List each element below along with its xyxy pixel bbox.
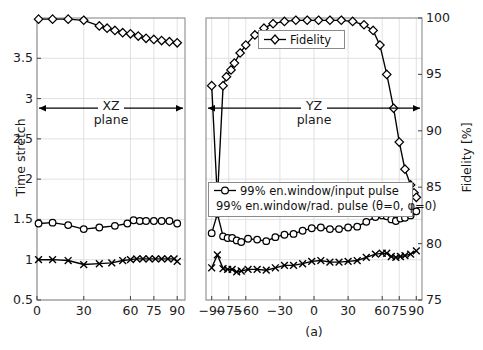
data-point-diamond [314, 16, 322, 24]
xz-plane-line1: XZ [94, 99, 129, 113]
data-point-diamond [118, 28, 126, 36]
data-point-circle [80, 226, 87, 233]
axis-tick-label: 30 [76, 303, 92, 318]
data-point-diamond [111, 26, 119, 34]
data-point-circle [336, 226, 343, 233]
y-axis-label-right: Fidelity [%] [459, 122, 474, 192]
data-point-circle [238, 239, 245, 246]
data-point-circle [363, 219, 370, 226]
data-point-circle [299, 227, 306, 234]
yz-plane-line1: YZ [297, 99, 332, 113]
data-point-diamond [80, 16, 88, 24]
diamond-marker [263, 33, 287, 46]
data-point-circle [49, 219, 56, 226]
axis-tick-label: 2.5 [13, 131, 33, 146]
data-point-diamond [34, 15, 42, 23]
figure-caption: (a) [305, 324, 322, 339]
axis-tick-label: 30 [340, 303, 356, 318]
axis-tick-label: 0 [33, 303, 41, 318]
legend-label-rad-pulse: 99% en.window/rad. pulse (θ=0, φ=0) [216, 199, 436, 213]
xz-plane-arrow-head [39, 105, 46, 111]
data-point-circle [35, 220, 42, 227]
axis-tick-label: 0.5 [13, 292, 33, 307]
legend-label-fidelity: Fidelity [290, 33, 331, 47]
axis-tick-label: 85 [426, 179, 442, 194]
data-point-circle [281, 231, 288, 238]
xz-plane-arrow-head [176, 105, 183, 111]
data-point-circle [318, 224, 325, 231]
xz-plane-line2: plane [94, 113, 129, 127]
axis-tick-label: 75 [146, 303, 162, 318]
chart-canvas [0, 0, 483, 350]
data-point-diamond [269, 19, 277, 27]
axis-tick-label: 1 [25, 252, 33, 267]
data-point-circle [354, 223, 361, 230]
yz-plane-line2: plane [297, 113, 332, 127]
data-point-circle [112, 223, 119, 230]
data-point-circle [290, 231, 297, 238]
axis-tick-label: 3.5 [13, 50, 33, 65]
axis-tick-label: 90 [408, 303, 424, 318]
data-point-circle [96, 224, 103, 231]
figure-container: Time stretch Fidelity [%] XZ plane YZ pl… [0, 0, 483, 350]
data-point-circle [254, 236, 261, 243]
data-point-diamond [222, 72, 230, 80]
legend-row-input-pulse: 99% en.window/input pulse [209, 183, 412, 198]
axis-tick-label: 75 [426, 292, 442, 307]
data-point-circle [130, 217, 137, 224]
legend-row-fidelity: Fidelity [259, 31, 344, 48]
data-point-diamond [103, 24, 111, 32]
data-point-diamond [126, 30, 134, 38]
legend-pulses[interactable]: 99% en.window/input pulse 99% en.window/… [208, 182, 413, 217]
data-point-circle [272, 234, 279, 241]
data-point-diamond [173, 39, 181, 47]
circle-marker [213, 184, 237, 197]
axis-tick-label: 60 [123, 303, 139, 318]
data-point-diamond [142, 34, 150, 42]
data-point-circle [143, 218, 150, 225]
data-point-diamond [134, 32, 142, 40]
data-point-circle [245, 235, 252, 242]
data-point-circle [308, 225, 315, 232]
axis-tick-label: 90 [426, 123, 442, 138]
data-point-diamond [95, 22, 103, 30]
axis-tick-label: 80 [426, 236, 442, 251]
data-point-circle [151, 218, 158, 225]
yz-plane-annotation: YZ plane [297, 99, 332, 127]
data-point-circle [65, 222, 72, 229]
legend-label-input-pulse: 99% en.window/input pulse [240, 184, 399, 198]
axis-tick-label: 95 [426, 66, 442, 81]
data-point-diamond [64, 15, 72, 23]
legend-row-rad-pulse: 99% en.window/rad. pulse (θ=0, φ=0) [209, 198, 412, 213]
data-point-diamond [383, 70, 391, 78]
data-point-circle [263, 238, 270, 245]
data-point-circle [166, 218, 173, 225]
data-point-circle [327, 226, 334, 233]
data-point-diamond [360, 21, 368, 29]
axis-tick-label: 60 [374, 303, 390, 318]
axis-tick-label: 100 [426, 10, 450, 25]
data-point-diamond [292, 16, 300, 24]
data-point-diamond [165, 37, 173, 45]
data-point-diamond [401, 165, 409, 173]
data-point-diamond [207, 81, 215, 89]
data-point-circle [345, 224, 352, 231]
data-point-circle [174, 220, 181, 227]
data-point-diamond [48, 15, 56, 23]
legend-fidelity[interactable]: Fidelity [258, 30, 345, 49]
axis-tick-label: 0 [310, 303, 318, 318]
data-point-diamond [303, 16, 311, 24]
xz-plane-annotation: XZ plane [94, 99, 129, 127]
data-point-diamond [150, 35, 158, 43]
axis-tick-label: −60 [233, 303, 259, 318]
data-point-circle [158, 218, 165, 225]
data-point-diamond [376, 41, 384, 49]
data-point-diamond [369, 26, 377, 34]
axis-tick-label: 2 [25, 171, 33, 186]
data-point-diamond [157, 36, 165, 44]
data-point-circle [208, 230, 215, 237]
axis-tick-label: 75 [391, 303, 407, 318]
data-point-diamond [337, 16, 345, 24]
axis-tick-label: 3 [25, 91, 33, 106]
axis-tick-label: 1.5 [13, 211, 33, 226]
